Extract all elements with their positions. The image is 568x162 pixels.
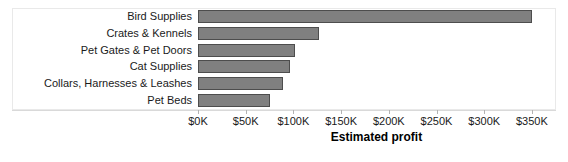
category-label-collars-harnesses-leashes: Collars, Harnesses & Leashes	[13, 77, 197, 90]
category-axis-labels: Bird Supplies Crates & Kennels Pet Gates…	[13, 9, 197, 109]
x-axis-tick-label: $150K	[325, 114, 357, 128]
bar-pet-gates-pet-doors[interactable]	[198, 44, 295, 57]
x-axis-tick-label: $50K	[233, 114, 259, 128]
x-axis-title: Estimated profit	[198, 130, 555, 144]
bar-row	[198, 27, 555, 40]
x-axis-tick-label: $300K	[468, 114, 500, 128]
category-label-crates-kennels: Crates & Kennels	[13, 27, 197, 40]
category-label-bird-supplies: Bird Supplies	[13, 10, 197, 23]
bars-container	[198, 9, 555, 109]
bar-row	[198, 77, 555, 90]
bar-row	[198, 10, 555, 23]
bar-collars-harnesses-leashes[interactable]	[198, 77, 283, 90]
bar-row	[198, 44, 555, 57]
bar-crates-kennels[interactable]	[198, 27, 319, 40]
x-axis-tick-label: $200K	[373, 114, 405, 128]
category-label-cat-supplies: Cat Supplies	[13, 60, 197, 73]
category-label-pet-beds: Pet Beds	[13, 94, 197, 107]
bar-chart: Bird Supplies Crates & Kennels Pet Gates…	[0, 0, 568, 162]
bar-bird-supplies[interactable]	[198, 10, 532, 23]
bar-row	[198, 94, 555, 107]
bar-pet-beds[interactable]	[198, 94, 270, 107]
bar-cat-supplies[interactable]	[198, 60, 290, 73]
x-axis-tick-labels: $0K$50K$100K$150K$200K$250K$300K$350K	[0, 114, 568, 128]
x-axis-tick-label: $100K	[277, 114, 309, 128]
category-label-pet-gates-pet-doors: Pet Gates & Pet Doors	[13, 44, 197, 57]
bar-row	[198, 60, 555, 73]
x-axis-tick-label: $250K	[421, 114, 453, 128]
x-axis-tick-label: $350K	[516, 114, 548, 128]
x-axis-tick-label: $0K	[188, 114, 208, 128]
